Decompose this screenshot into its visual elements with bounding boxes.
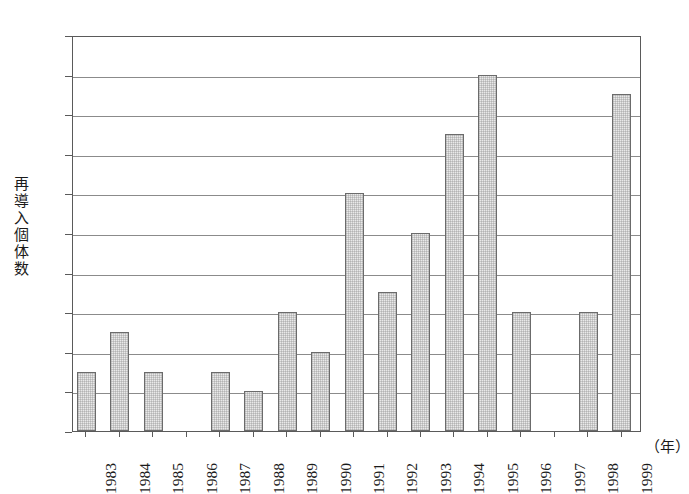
x-tick-label: 1992: [404, 432, 420, 494]
bar: [345, 193, 364, 431]
bar: [612, 94, 631, 431]
y-tick-mark: [65, 36, 72, 37]
x-tick-label: 1987: [237, 432, 253, 494]
y-tick-mark: [65, 155, 72, 156]
bar-hatch-fill: [379, 293, 396, 430]
x-tick-label: 1985: [170, 432, 186, 494]
bar-hatch-fill: [412, 234, 429, 430]
x-tick-label: 1989: [304, 432, 320, 494]
bar-hatch-fill: [279, 313, 296, 430]
y-tick-mark: [65, 194, 72, 195]
bar: [278, 312, 297, 431]
x-tick-mark: [487, 432, 488, 437]
x-tick-mark: [387, 432, 388, 437]
x-tick-mark: [85, 432, 86, 437]
y-tick-mark: [65, 392, 72, 393]
y-tick-mark: [65, 313, 72, 314]
bar-hatch-fill: [513, 313, 530, 430]
bar-hatch-fill: [245, 392, 262, 430]
x-tick-mark: [420, 432, 421, 437]
x-tick-mark: [453, 432, 454, 437]
y-tick-mark: [65, 353, 72, 354]
x-tick-label: 1996: [538, 432, 554, 494]
y-tick-mark: [65, 274, 72, 275]
bar-hatch-fill: [145, 373, 162, 430]
x-tick-mark: [353, 432, 354, 437]
x-tick-mark: [152, 432, 153, 437]
x-tick-label: 1984: [137, 432, 153, 494]
bar: [378, 292, 397, 431]
x-tick-label: 1993: [438, 432, 454, 494]
x-tick-mark: [119, 432, 120, 437]
x-tick-label: 1991: [371, 432, 387, 494]
x-tick-mark: [621, 432, 622, 437]
x-tick-label: 1994: [471, 432, 487, 494]
bar: [512, 312, 531, 431]
x-tick-mark: [554, 432, 555, 437]
bar: [445, 134, 464, 431]
x-tick-mark: [286, 432, 287, 437]
gridline: [73, 116, 640, 117]
x-tick-mark: [219, 432, 220, 437]
bar: [77, 372, 96, 431]
bar-hatch-fill: [312, 353, 329, 430]
bar-hatch-fill: [212, 373, 229, 430]
x-tick-mark: [186, 432, 187, 437]
x-tick-mark: [253, 432, 254, 437]
x-tick-label: 1988: [271, 432, 287, 494]
bar-hatch-fill: [78, 373, 95, 430]
bar: [478, 75, 497, 431]
gridline: [73, 156, 640, 157]
bar-hatch-fill: [479, 76, 496, 430]
x-tick-label: 1998: [605, 432, 621, 494]
y-axis-ticks: 02468101214161820: [0, 0, 72, 491]
y-tick-mark: [65, 115, 72, 116]
bar-hatch-fill: [346, 194, 363, 430]
x-tick-mark: [587, 432, 588, 437]
x-tick-label: 1986: [204, 432, 220, 494]
bar: [110, 332, 129, 431]
x-tick-label: 1983: [103, 432, 119, 494]
bar: [211, 372, 230, 431]
bar: [411, 233, 430, 431]
gridline: [73, 77, 640, 78]
x-tick-mark: [320, 432, 321, 437]
bar-hatch-fill: [446, 135, 463, 430]
y-tick-mark: [65, 234, 72, 235]
bar-hatch-fill: [613, 95, 630, 430]
x-axis-unit-label: （年）: [645, 440, 689, 455]
x-tick-mark: [520, 432, 521, 437]
bar: [144, 372, 163, 431]
bar: [244, 391, 263, 431]
bar: [311, 352, 330, 431]
x-tick-label: 1997: [572, 432, 588, 494]
y-tick-mark: [65, 76, 72, 77]
plot-area: [72, 36, 641, 432]
bar-hatch-fill: [111, 333, 128, 430]
x-tick-label: 1990: [338, 432, 354, 494]
x-tick-label: 1995: [505, 432, 521, 494]
bar: [579, 312, 598, 431]
x-axis-ticks: 1983198419851986198719881989199019911992…: [0, 432, 689, 491]
bar-hatch-fill: [580, 313, 597, 430]
